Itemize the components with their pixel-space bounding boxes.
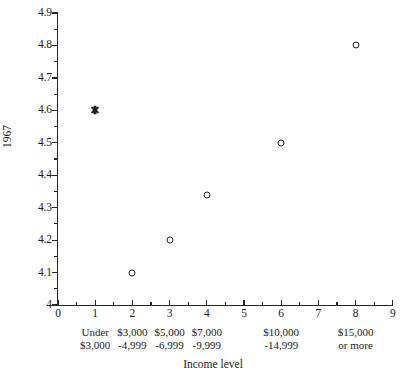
y-tick-label: 4.5 [38,137,52,149]
data-point-marker-star [91,106,100,115]
x-tick-label: 7 [316,307,322,319]
y-tick-minor [54,158,58,159]
x-category-label-line1: $5,000 [154,326,184,339]
x-tick-label: 6 [278,307,284,319]
x-category-label: Under$3,000 [80,326,110,351]
x-tick-minor [225,302,226,305]
y-tick [52,207,58,208]
x-tick [281,300,282,305]
x-category-label: $3,000-4,999 [117,326,147,351]
x-tick-minor [150,302,151,305]
y-tick-label: 4.3 [38,202,52,214]
x-tick [57,300,58,305]
x-tick-minor [76,302,77,305]
x-category-label-line2: -14,999 [263,339,299,352]
x-tick-minor [113,302,114,305]
x-tick-minor [262,302,263,305]
x-tick [169,300,170,305]
x-axis-title: Income level [183,358,243,370]
y-tick-minor [54,29,58,30]
x-tick-minor [188,302,189,305]
y-tick-minor [54,223,58,224]
y-tick-label: 4.8 [38,39,52,51]
y-tick-label: 4.1 [38,267,52,279]
x-category-label-line2: -9,999 [192,339,222,352]
x-tick-label: 4 [204,307,210,319]
y-tick [52,240,58,241]
y-tick [52,142,58,143]
x-category-label-line1: $7,000 [192,326,222,339]
x-tick [355,300,356,305]
scatter-chart: 1967 Income level 44.14.24.34.44.54.64.7… [0,0,416,381]
y-tick [52,77,58,78]
x-category-label-line2: -4,999 [117,339,147,352]
x-category-label-line1: Under [80,326,110,339]
x-tick-label: 2 [130,307,136,319]
x-tick-label: 5 [241,307,247,319]
y-tick-minor [54,288,58,289]
x-tick [392,300,393,305]
y-tick [52,12,58,13]
x-category-label: $15,000or more [338,326,374,351]
y-tick-minor [54,126,58,127]
x-tick-label: 3 [167,307,173,319]
x-tick [318,300,319,305]
data-point-marker-circle [166,237,173,244]
y-tick-label: 4.6 [38,104,52,116]
x-category-label: $5,000-6,999 [154,326,184,351]
x-tick [206,300,207,305]
y-tick-label: 4.7 [38,72,52,84]
x-tick-label: 8 [353,307,359,319]
y-tick-minor [54,191,58,192]
x-category-label-line2: -6,999 [154,339,184,352]
x-category-label-line2: or more [338,339,374,352]
x-category-label-line1: $15,000 [338,326,374,339]
data-point-marker-circle [203,191,210,198]
y-tick [52,175,58,176]
y-axis-title: 1967 [2,125,14,148]
y-tick-label: 4 [46,299,52,311]
y-tick-label: 4.2 [38,234,52,246]
x-tick [243,300,244,305]
x-tick-minor [299,302,300,305]
y-tick [52,45,58,46]
x-category-label-line1: $3,000 [117,326,147,339]
x-tick [95,300,96,305]
x-tick-label: 1 [92,307,98,319]
data-point-marker-circle [352,42,359,49]
y-tick [52,272,58,273]
data-point-marker-circle [278,139,285,146]
y-tick-minor [54,94,58,95]
x-tick-label: 0 [55,307,61,319]
x-tick [132,300,133,305]
y-tick [52,110,58,111]
x-category-label: $7,000-9,999 [192,326,222,351]
x-tick-minor [336,302,337,305]
x-category-label: $10,000-14,999 [263,326,299,351]
y-tick-label: 4.4 [38,169,52,181]
x-tick-minor [374,302,375,305]
y-tick-minor [54,61,58,62]
y-tick-label: 4.9 [38,7,52,19]
x-category-label-line2: $3,000 [80,339,110,352]
x-tick-label: 9 [390,307,396,319]
data-point-marker-circle [129,269,136,276]
x-category-label-line1: $10,000 [263,326,299,339]
y-tick-minor [54,256,58,257]
